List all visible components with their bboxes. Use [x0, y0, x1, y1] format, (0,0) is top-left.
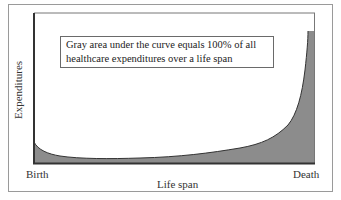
x-tick-death: Death: [293, 168, 319, 180]
annotation-box: Gray area under the curve equals 100% of…: [60, 36, 274, 68]
x-tick-birth: Birth: [26, 168, 49, 180]
annotation-line-1: Gray area under the curve equals 100% of…: [66, 38, 273, 52]
x-axis-label: Life span: [157, 178, 198, 190]
annotation-line-2: healthcare expenditures over a life span: [66, 52, 273, 66]
y-axis-label: Expenditures: [12, 61, 24, 119]
chart-plot: [0, 0, 341, 200]
y-axis-label-wrap: Expenditures: [12, 119, 26, 189]
